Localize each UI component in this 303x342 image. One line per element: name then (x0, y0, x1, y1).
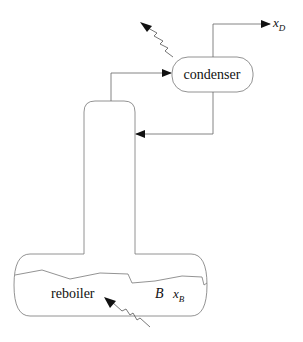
liquid-level-line (15, 270, 207, 285)
distillate-label: xD (272, 15, 286, 33)
condenser-label: condenser (184, 67, 241, 82)
condenser-heat-arrow-icon (148, 28, 173, 57)
distillation-diagram: condenser xD reboiler B xB (0, 0, 303, 342)
reboiler-label: reboiler (51, 286, 95, 301)
bottoms-holdup-label: B (155, 286, 164, 301)
condenser-heat-arrowhead-icon (140, 22, 152, 32)
column-and-reboiler-outline (14, 101, 207, 316)
reboiler-heat-arrow-icon (112, 302, 150, 327)
reboiler-heat-arrowhead-icon (104, 297, 116, 308)
vapor-line (111, 73, 171, 101)
distillate-line (213, 24, 270, 57)
bottoms-composition-label: xB (172, 286, 185, 304)
reflux-line (136, 92, 213, 134)
